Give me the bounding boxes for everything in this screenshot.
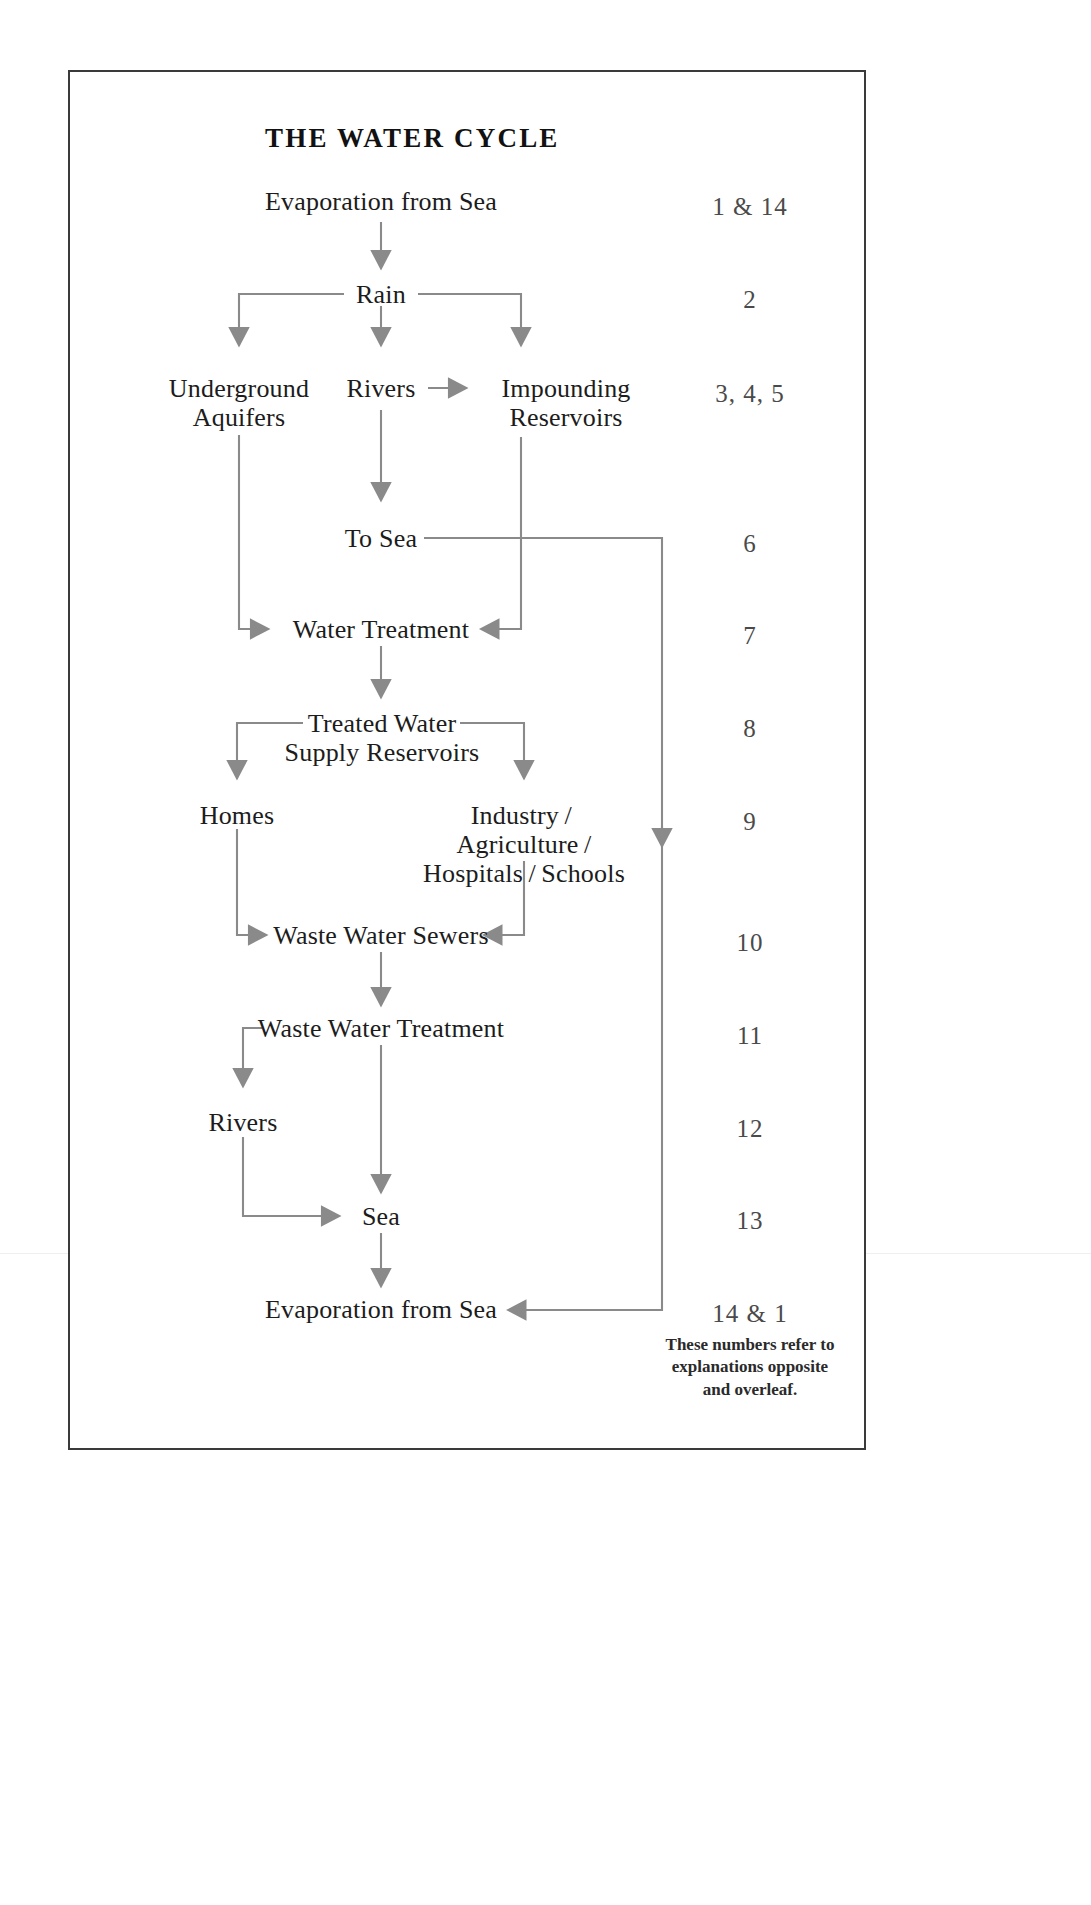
reference-number-10: 10 bbox=[665, 929, 835, 957]
node-rain: Rain bbox=[321, 280, 441, 311]
node-water-treatment: Water Treatment bbox=[271, 615, 491, 646]
node-to-sea: To Sea bbox=[311, 524, 451, 555]
node-impounding-reservoirs: Impounding Reservoirs bbox=[463, 374, 669, 432]
node-industry-agriculture-hospitals-schools: Industry / Agriculture / Hospitals / Sch… bbox=[404, 801, 644, 888]
reference-number-6: 6 bbox=[665, 530, 835, 558]
node-industry-line2: Hospitals / Schools bbox=[404, 859, 644, 888]
node-underground-aquifers-line2: Aquifers bbox=[139, 403, 339, 432]
node-homes: Homes bbox=[167, 801, 307, 832]
node-evaporation-from-sea-top: Evaporation from Sea bbox=[181, 187, 581, 218]
node-waste-water-treatment: Waste Water Treatment bbox=[241, 1014, 521, 1045]
reference-number-8: 8 bbox=[665, 715, 835, 743]
node-industry-line1: Industry / Agriculture / bbox=[404, 801, 644, 859]
node-underground-aquifers: Underground Aquifers bbox=[139, 374, 339, 432]
node-underground-aquifers-line1: Underground bbox=[139, 374, 339, 403]
reference-number-14-and-1: 14 & 1 bbox=[665, 1300, 835, 1328]
node-rivers-lower: Rivers bbox=[173, 1108, 313, 1139]
reference-number-9: 9 bbox=[665, 808, 835, 836]
diagram-title: THE WATER CYCLE bbox=[265, 123, 560, 154]
reference-number-12: 12 bbox=[665, 1115, 835, 1143]
reference-number-11: 11 bbox=[665, 1022, 835, 1050]
node-waste-water-sewers: Waste Water Sewers bbox=[251, 921, 511, 952]
node-impounding-reservoirs-line2: Reservoirs bbox=[463, 403, 669, 432]
reference-number-7: 7 bbox=[665, 622, 835, 650]
reference-number-2: 2 bbox=[665, 286, 835, 314]
node-sea: Sea bbox=[331, 1202, 431, 1233]
node-evaporation-from-sea-bottom: Evaporation from Sea bbox=[181, 1295, 581, 1326]
node-treated-water-supply-reservoirs: Treated Water Supply Reservoirs bbox=[271, 709, 493, 767]
node-rivers-upper: Rivers bbox=[321, 374, 441, 405]
reference-number-13: 13 bbox=[665, 1207, 835, 1235]
node-treated-water-line1: Treated Water bbox=[271, 709, 493, 738]
reference-number-3-4-5: 3, 4, 5 bbox=[665, 380, 835, 408]
water-cycle-page: THE WATER CYCLE Evaporation from Sea Rai… bbox=[0, 0, 1091, 1905]
numbers-footnote: These numbers refer to explanations oppo… bbox=[665, 1334, 835, 1401]
node-impounding-reservoirs-line1: Impounding bbox=[463, 374, 669, 403]
reference-number-1-and-14: 1 & 14 bbox=[665, 193, 835, 221]
node-treated-water-line2: Supply Reservoirs bbox=[271, 738, 493, 767]
